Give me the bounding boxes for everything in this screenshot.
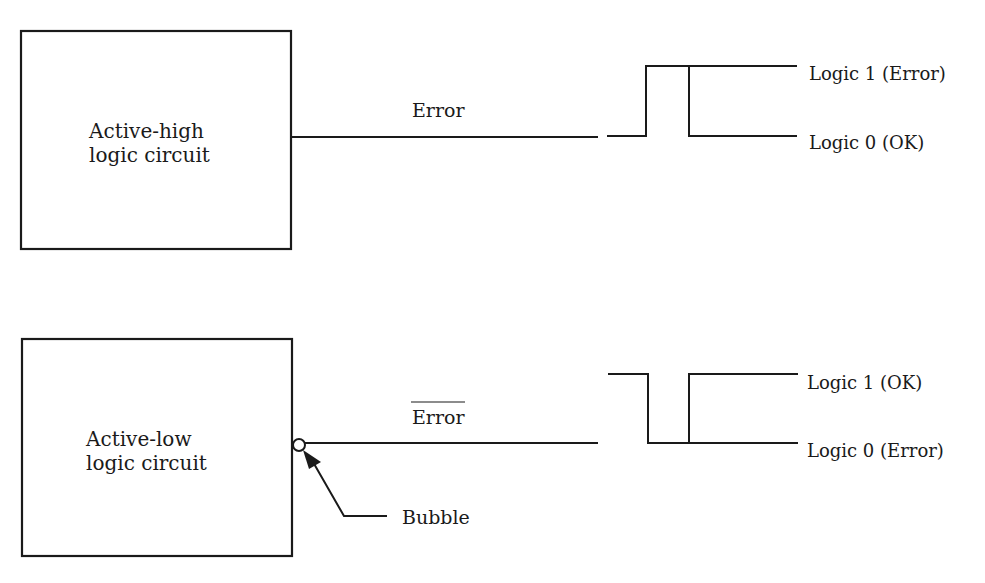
active-low-waveform xyxy=(608,374,798,443)
active-low-signal-name: Error xyxy=(412,406,465,428)
active-high-waveform xyxy=(607,66,797,136)
active-low-logic-0-label: Logic 0 (Error) xyxy=(807,440,944,461)
active-low-logic-1-label: Logic 1 (OK) xyxy=(807,372,922,393)
logic-diagram: Active-high logic circuit Error Logic 1 … xyxy=(0,0,985,583)
inversion-bubble-icon xyxy=(293,439,305,451)
active-low-block-label-line1: Active-low xyxy=(85,427,192,451)
active-low-block-label-line2: logic circuit xyxy=(86,451,207,475)
arrowhead-icon xyxy=(303,450,321,469)
active-high-signal-name: Error xyxy=(412,99,465,121)
active-high-logic-0-label: Logic 0 (OK) xyxy=(809,132,924,153)
active-high-logic-1-label: Logic 1 (Error) xyxy=(809,63,946,84)
bubble-callout-label: Bubble xyxy=(402,506,470,528)
bubble-callout-leader xyxy=(313,462,387,516)
active-low-section: Active-low logic circuit Error Logic 1 (… xyxy=(22,339,944,556)
active-high-block-label-line2: logic circuit xyxy=(89,143,210,167)
active-high-block-label-line1: Active-high xyxy=(88,119,204,143)
active-high-section: Active-high logic circuit Error Logic 1 … xyxy=(21,31,946,249)
